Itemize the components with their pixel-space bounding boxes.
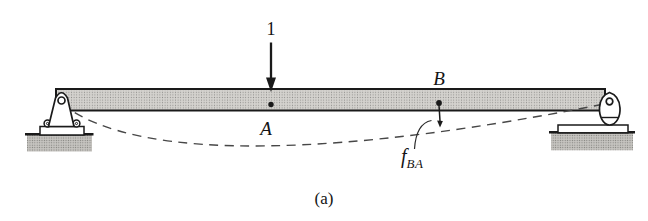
- beam-texture: [56, 89, 605, 111]
- fba-leader-line: [415, 121, 432, 150]
- figure-caption: (a): [302, 190, 346, 207]
- pin-support-base-plate: [40, 127, 84, 136]
- pin-hole-icon: [606, 98, 613, 105]
- deflection-subscript: BA: [407, 156, 424, 171]
- deflection-label: fBA: [401, 146, 423, 170]
- point-a-marker: [268, 102, 273, 107]
- point-b-marker: [436, 100, 442, 106]
- left-ground-texture: [27, 135, 92, 152]
- left-ground-block: [25, 134, 94, 151]
- right-ground-texture: [551, 133, 633, 151]
- deflection-arrow-shaft: [439, 106, 440, 122]
- figure-drawing: [0, 0, 648, 221]
- roller-support: [599, 93, 620, 126]
- deflection-arrowhead-icon: [437, 121, 443, 128]
- unit-load-arrow: [266, 43, 276, 93]
- roller-support-base-plate: [558, 125, 628, 133]
- right-ground-block: [549, 132, 635, 150]
- beam: [56, 89, 605, 111]
- beam-deflection-figure: 1 A B fBA (a): [0, 0, 648, 221]
- pin-hole-icon: [58, 97, 65, 104]
- point-b-label: B: [429, 69, 449, 88]
- point-a-label: A: [256, 119, 276, 138]
- unit-load-label: 1: [262, 20, 280, 38]
